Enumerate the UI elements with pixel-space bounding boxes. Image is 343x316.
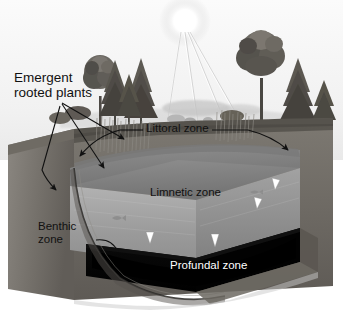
label-limnetic-zone: Limnetic zone (150, 186, 221, 199)
label-benthic-zone: Benthic zone (38, 220, 76, 246)
label-profundal-zone: Profundal zone (170, 259, 247, 272)
lake-zones-diagram: Emergent rooted plants Littoral zone Lim… (0, 0, 343, 316)
label-emergent-rooted-plants: Emergent rooted plants (14, 70, 92, 100)
ground-block-left-face (8, 129, 74, 300)
label-littoral-zone: Littoral zone (146, 122, 209, 135)
